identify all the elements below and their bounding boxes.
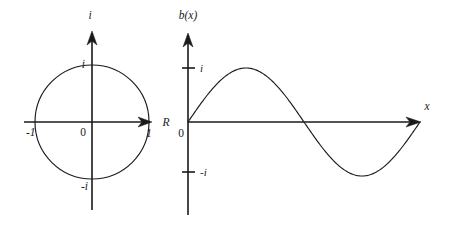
x-axis-label: x	[423, 100, 430, 112]
tick-label-minus-one: -1	[26, 126, 36, 138]
imaginary-axis-label: i	[88, 9, 91, 21]
sine-tick-label-minus-i: -i	[200, 166, 207, 178]
panel-complex-plane: i R 0 -1 1 i -i	[24, 9, 170, 210]
sine-origin-label: 0	[178, 127, 184, 139]
figure-container: i R 0 -1 1 i -i b(x) x	[0, 0, 456, 227]
math-diagram: i R 0 -1 1 i -i b(x) x	[0, 0, 456, 227]
tick-label-i: i	[82, 58, 85, 70]
origin-label: 0	[80, 126, 86, 138]
real-axis-label: R	[161, 116, 169, 128]
panel-sine-plot: b(x) x 0 i -i	[178, 9, 430, 215]
sine-tick-label-i: i	[200, 62, 203, 74]
bx-axis-label: b(x)	[179, 9, 198, 22]
tick-label-minus-i: -i	[81, 180, 88, 192]
tick-label-one: 1	[146, 127, 152, 139]
